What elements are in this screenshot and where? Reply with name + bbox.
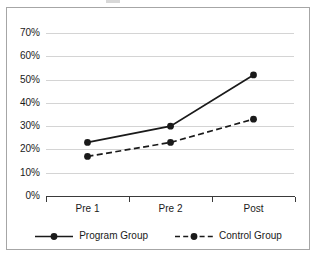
y-axis-tick-label: 60% xyxy=(6,51,40,61)
y-axis-tick-label: 30% xyxy=(6,121,40,131)
y-axis-tick-label: 50% xyxy=(6,75,40,85)
legend-entry[interactable]: Program Group xyxy=(34,230,148,242)
legend-label: Control Group xyxy=(219,230,282,242)
x-axis-category-label: Post xyxy=(212,203,296,215)
gridline xyxy=(46,126,294,127)
legend-key-icon xyxy=(34,231,74,242)
x-axis-line xyxy=(46,196,295,197)
x-axis-labels: Pre 1Pre 2Post xyxy=(46,203,295,219)
x-axis-tick xyxy=(46,197,47,202)
legend-key-icon xyxy=(174,231,214,242)
y-axis-tick-label: 70% xyxy=(6,28,40,38)
y-axis-tick-label: 0% xyxy=(6,191,40,201)
x-axis-tick xyxy=(212,197,213,202)
chart-legend: Program GroupControl Group xyxy=(7,226,309,246)
cropped-title-remnant xyxy=(106,0,120,3)
x-axis-tick xyxy=(295,197,296,202)
gridline xyxy=(46,173,294,174)
gridline xyxy=(46,56,294,57)
legend-label: Program Group xyxy=(79,230,148,242)
legend-entry[interactable]: Control Group xyxy=(174,230,282,242)
gridline xyxy=(46,149,294,150)
x-axis-category-label: Pre 1 xyxy=(46,203,130,215)
y-axis-tick-label: 40% xyxy=(6,98,40,108)
plot-area xyxy=(46,26,294,197)
gridline xyxy=(46,33,294,34)
x-axis-category-label: Pre 2 xyxy=(129,203,213,215)
y-axis-tick-label: 10% xyxy=(6,168,40,178)
y-axis-labels: 0%10%20%30%40%50%60%70% xyxy=(6,0,40,243)
line-chart-figure: 0%10%20%30%40%50%60%70% Pre 1Pre 2Post P… xyxy=(0,0,327,262)
gridline xyxy=(46,103,294,104)
x-axis-tick xyxy=(129,197,130,202)
y-axis-tick-label: 20% xyxy=(6,144,40,154)
gridline xyxy=(46,80,294,81)
